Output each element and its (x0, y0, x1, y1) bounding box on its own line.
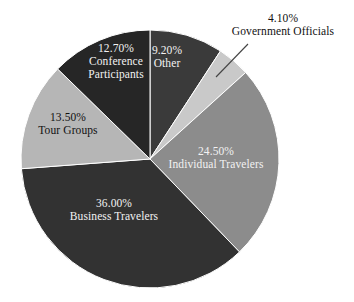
pie-chart-svg (0, 0, 354, 302)
pie-chart-figure: 9.20% Other 12.70% Conference Participan… (0, 0, 354, 302)
pie-slices-group (21, 30, 279, 288)
